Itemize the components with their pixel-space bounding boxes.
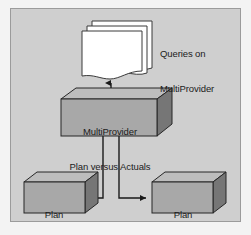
multiprovider-label: MultiProvider Plan versus Actuals [62,103,158,195]
multiprovider-label-line1: MultiProvider [62,126,158,138]
query-stack-label: Queries on MultiProvider [160,25,214,117]
query-stack-label-line2: MultiProvider [160,83,214,95]
diagram-figure: Queries on MultiProvider MultiProvider P… [0,0,251,235]
left-infocube-label: Plan InfoCube [26,186,82,235]
right-infocube-label: Plan InfoCube [155,186,211,235]
multiprovider-label-line2: Plan versus Actuals [62,161,158,173]
query-stack-label-line1: Queries on [160,48,214,60]
right-infocube-label-line1: Plan [155,209,211,221]
query-sheet-front [82,31,142,79]
query-stack-shape [82,21,152,79]
multiprovider-cube-top [61,88,172,99]
left-infocube-label-line1: Plan [26,209,82,221]
